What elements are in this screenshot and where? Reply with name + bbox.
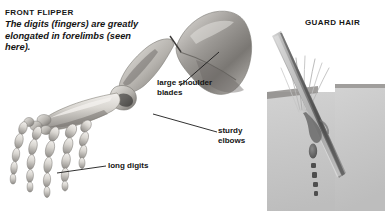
guard-hair-illustration [267,31,385,211]
leader-line-elbows [153,114,217,132]
digit-2 [26,125,43,192]
digit-3 [43,125,61,197]
digit-1 [10,121,29,184]
digit-5 [78,118,94,168]
digit-4 [60,122,78,191]
callout-sturdy-elbows: sturdy elbows [218,126,245,145]
callout-large-shoulder-blades: large shoulder blades [157,78,212,97]
hair-bulb [309,144,317,159]
skin-block-right-top [335,88,385,211]
guard-hair-heading: GUARD HAIR [305,18,360,27]
illustration-page: FRONT FLIPPER The digits (fingers) are g… [0,0,385,211]
front-flipper-heading: FRONT FLIPPER [5,8,74,17]
front-flipper-description: The digits (fingers) are greatly elongat… [5,19,145,54]
callout-long-digits: long digits [108,161,148,171]
